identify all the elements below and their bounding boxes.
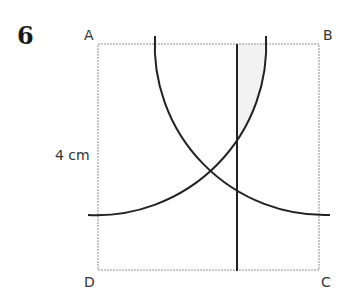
label-a: A — [84, 27, 94, 43]
question-number: 6 — [17, 21, 34, 50]
side-length-label: 4 cm — [55, 147, 90, 163]
label-c: C — [321, 274, 331, 290]
label-b: B — [323, 27, 333, 43]
shaded-region — [237, 44, 266, 142]
geometry-diagram: 6 A B C D 4 cm — [0, 0, 353, 298]
square-abcd — [98, 44, 319, 270]
label-d: D — [84, 274, 95, 290]
